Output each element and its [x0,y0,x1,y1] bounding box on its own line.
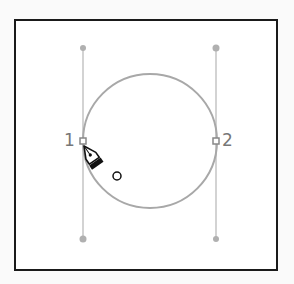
close-path-indicator-icon [113,172,121,180]
circle-path[interactable] [83,74,217,208]
anchor-label-1: 1 [64,132,75,149]
anchor-point-2[interactable] [213,138,219,144]
handle-point-bottom-1[interactable] [80,236,87,243]
path-diagram [0,0,294,284]
anchor-point-1[interactable] [80,138,86,144]
anchor-label-2: 2 [222,132,233,149]
handle-point-top-2[interactable] [213,45,220,52]
pen-tool-icon [78,142,103,170]
handle-point-bottom-2[interactable] [213,236,219,242]
handle-point-top-1[interactable] [80,45,86,51]
